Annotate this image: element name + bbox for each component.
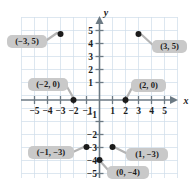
x-tick-label-4: 4 [149, 106, 154, 116]
x-tick-labels: −5 −4 −3 −2 −1 1 2 3 4 5 [29, 106, 167, 116]
point-neg1-neg3 [84, 144, 90, 150]
y-axis-label: y [103, 7, 109, 18]
y-tick-labels: 5 4 3 2 1 −1 −2 −3 −4 −5 [87, 26, 97, 179]
point-1-neg3 [110, 144, 116, 150]
x-tick-label-2: 2 [123, 106, 128, 116]
callout-3-5-label: (3, 5) [160, 41, 179, 51]
y-tick-label-neg2: −2 [87, 130, 97, 140]
leader-1-neg3 [114, 147, 128, 154]
y-tick-label-neg4: −4 [87, 156, 97, 166]
callout-neg1-neg3-label: (−1, −3) [37, 147, 66, 157]
x-tick-label-neg5: −5 [29, 106, 39, 116]
point-neg3-5 [58, 31, 64, 37]
callout-0-neg4-label: (0, −4) [116, 167, 140, 177]
point-2-0 [123, 97, 129, 103]
callout-2-0: (2, 0) [131, 79, 166, 92]
callout-neg2-0-label: (−2, 0) [36, 79, 60, 89]
callout-1-neg3: (1, −3) [126, 148, 168, 161]
graph-canvas: −5 −4 −3 −2 −1 1 2 3 4 5 5 4 3 2 1 −1 −2… [0, 0, 192, 190]
y-axis [96, 16, 104, 178]
y-tick-label-2: 2 [88, 65, 93, 75]
callout-neg3-5: (−3, 5) [7, 35, 47, 48]
x-tick-label-1: 1 [110, 106, 115, 116]
point-0-neg4 [97, 157, 103, 163]
x-tick-label-3: 3 [136, 106, 141, 116]
callout-neg1-neg3: (−1, −3) [28, 146, 74, 159]
y-tick-label-5: 5 [88, 26, 93, 36]
callout-0-neg4: (0, −4) [107, 166, 149, 179]
x-axis-label: x [183, 95, 189, 106]
y-tick-label-4: 4 [88, 39, 93, 49]
callout-3-5: (3, 5) [152, 40, 187, 53]
y-tick-label-3: 3 [88, 52, 93, 62]
callout-2-0-label: (2, 0) [139, 80, 158, 90]
point-3-5 [136, 31, 142, 37]
point-neg2-0 [71, 97, 77, 103]
callout-1-neg3-label: (1, −3) [135, 149, 159, 159]
y-tick-label-neg1: −1 [87, 110, 97, 120]
y-tick-label-neg5: −5 [87, 169, 97, 179]
y-tick-label-1: 1 [88, 78, 93, 88]
x-tick-label-neg3: −3 [55, 106, 65, 116]
x-tick-label-neg4: −4 [42, 106, 52, 116]
callout-neg3-5-label: (−3, 5) [15, 36, 39, 46]
callout-neg2-0: (−2, 0) [28, 78, 68, 91]
x-tick-label-5: 5 [162, 106, 167, 116]
x-tick-label-neg2: −2 [68, 106, 78, 116]
coordinate-plane-figure: −5 −4 −3 −2 −1 1 2 3 4 5 5 4 3 2 1 −1 −2… [0, 0, 192, 190]
